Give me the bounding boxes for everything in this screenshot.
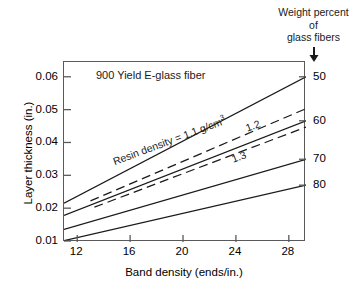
right-axis-tick-label: 60 xyxy=(313,114,326,126)
caption-line-3: glass fibers xyxy=(268,31,359,44)
plot-title: 900 Yield E-glass fiber xyxy=(96,70,205,81)
chart-figure: Weight percent of glass fibers Layer thi… xyxy=(0,0,359,289)
x-axis-tick-label: 24 xyxy=(215,245,255,257)
right-axis-caption: Weight percent of glass fibers xyxy=(268,6,359,44)
right-axis-tick-label: 50 xyxy=(313,70,326,82)
plot-lines xyxy=(64,62,306,242)
x-axis-title: Band density (ends/in.) xyxy=(63,266,305,278)
y-axis-tick-label: 0.03 xyxy=(36,168,58,180)
series-line xyxy=(94,127,306,207)
y-axis-tick-label: 0.04 xyxy=(36,135,58,147)
series-line xyxy=(64,185,306,241)
x-axis-tick-label: 28 xyxy=(268,245,308,257)
y-axis-tick-labels: 0.010.020.030.040.050.06 xyxy=(12,0,58,289)
x-axis-tick-label: 16 xyxy=(109,245,149,257)
x-axis-tick-label: 12 xyxy=(56,245,96,257)
caption-line-1: Weight percent xyxy=(268,6,359,19)
y-axis-tick-label: 0.01 xyxy=(36,234,58,246)
series-line xyxy=(64,159,306,229)
right-axis-tick-label: 80 xyxy=(313,178,326,190)
y-axis-tick-label: 0.02 xyxy=(36,201,58,213)
y-axis-tick-label: 0.06 xyxy=(36,70,58,82)
caption-line-2: of xyxy=(268,19,359,32)
right-axis-tick-label: 70 xyxy=(313,152,326,164)
down-arrow-icon xyxy=(309,47,319,62)
y-axis-tick-label: 0.05 xyxy=(36,103,58,115)
x-axis-tick-label: 20 xyxy=(162,245,202,257)
plot-area xyxy=(63,61,305,241)
